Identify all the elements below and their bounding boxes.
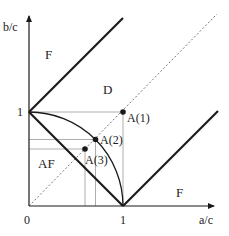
x-axis-label: a/c — [199, 213, 213, 227]
point-label-a1: A(1) — [127, 111, 150, 125]
point-a2 — [93, 137, 99, 143]
phase-diagram: b/c a/c 0 1 1 F D AF F A(1) A(2) A(3) — [0, 0, 229, 236]
y-tick-label-1: 1 — [17, 105, 23, 119]
y-axis-label: b/c — [3, 20, 18, 34]
point-label-a2: A(2) — [100, 133, 123, 147]
upper-boundary-line — [29, 18, 123, 112]
lower-boundary-line — [123, 111, 218, 206]
region-label-f-lower: F — [176, 185, 183, 200]
point-a3 — [82, 146, 88, 152]
region-label-d: D — [103, 82, 112, 97]
point-a1 — [120, 109, 126, 115]
x-tick-label-1: 1 — [120, 213, 126, 227]
region-label-f-upper: F — [45, 47, 52, 62]
origin-label: 0 — [24, 213, 30, 227]
region-label-af: AF — [38, 156, 55, 171]
point-label-a3: A(3) — [85, 153, 108, 167]
